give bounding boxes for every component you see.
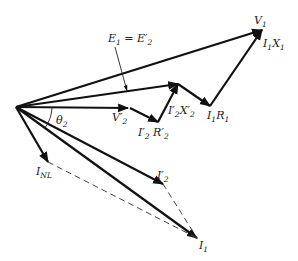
v2p-vector: [16, 107, 128, 108]
inl-to-i1-dashed: [48, 162, 197, 238]
label-i1: I1: [198, 239, 208, 254]
label-i1x1: I1X1: [262, 37, 285, 52]
label-inl: INL: [35, 165, 52, 180]
label-i1r1: I1R1: [206, 109, 229, 124]
label-i2x2: I′2X′2: [167, 104, 195, 119]
i2p-to-i1-dashed: [163, 184, 197, 238]
i1r1-vector: [178, 84, 210, 106]
label-e1: E1 = E′2: [107, 32, 153, 47]
label-v2p: V′2: [112, 111, 127, 126]
label-i2r2: I′2 R′2: [137, 126, 169, 141]
i2r2-vector: [130, 108, 158, 122]
i1x1-vector: [210, 30, 262, 106]
label-v1: V1: [254, 14, 267, 29]
label-i2p: I′2: [156, 169, 169, 184]
e1-pointer: [115, 47, 127, 91]
phasor-diagram: V1 I1X1 E1 = E′2 V′2 I′2 R′2 I′2X′2 I1R1…: [0, 0, 298, 261]
label-theta2: θ2: [56, 114, 68, 129]
e1-vector: [16, 84, 178, 107]
